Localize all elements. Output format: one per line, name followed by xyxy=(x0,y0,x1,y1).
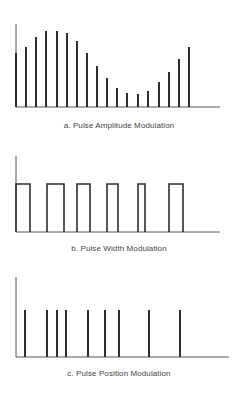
caption-ppm: c. Pulse Position Modulation xyxy=(0,369,238,378)
width-pulse xyxy=(138,184,145,232)
pam-panel xyxy=(16,24,220,107)
width-pulse xyxy=(77,184,90,232)
width-pulse xyxy=(16,184,30,232)
width-pulse xyxy=(47,184,64,232)
caption-pam: a. Pulse Amplitude Modulation xyxy=(0,121,238,130)
ppm-panel xyxy=(16,277,229,357)
caption-pwm: b. Pulse Width Modulation xyxy=(0,244,238,253)
width-pulse xyxy=(169,184,183,232)
width-pulse xyxy=(107,184,118,232)
modulation-figure xyxy=(0,0,238,402)
pwm-panel xyxy=(16,156,220,232)
